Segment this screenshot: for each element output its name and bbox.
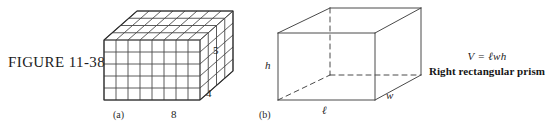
part-b-label: (b) xyxy=(259,110,271,120)
figure-container: FIGURE 11-38 xyxy=(0,0,552,129)
formula-block: V = ℓwh Right rectangular prism xyxy=(424,50,550,77)
prism-visible-edges xyxy=(278,8,421,100)
prism-front-face xyxy=(278,33,375,100)
volume-formula: V = ℓwh xyxy=(424,50,550,62)
prism-height-label: h xyxy=(265,60,271,71)
prism-width-label: w xyxy=(386,90,393,101)
prism-caption: Right rectangular prism xyxy=(424,65,550,77)
prism-length-label: ℓ xyxy=(322,105,327,116)
